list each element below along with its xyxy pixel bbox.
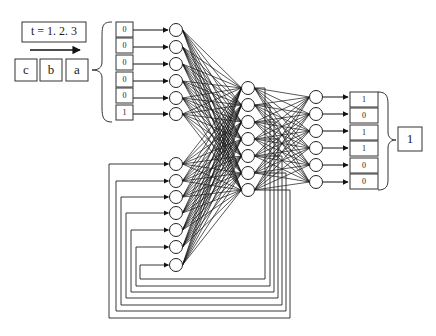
- input-value: 1: [116, 108, 133, 117]
- output-neuron: [310, 176, 323, 189]
- hidden-neuron: [242, 167, 255, 180]
- neuron: [170, 191, 183, 204]
- hidden-neuron: [242, 133, 255, 146]
- neuron: [170, 108, 183, 121]
- input-value: 0: [116, 25, 133, 34]
- input-value: 0: [116, 41, 133, 50]
- neuron: [170, 224, 183, 237]
- neuron: [170, 24, 183, 37]
- neuron: [170, 207, 183, 220]
- output-brace: [378, 92, 396, 190]
- input-brace: [92, 22, 112, 122]
- result-label: 1: [398, 131, 422, 147]
- output-value: 0: [350, 161, 378, 170]
- neuron: [170, 175, 183, 188]
- neuron: [170, 241, 183, 254]
- hidden-neuron: [242, 184, 255, 197]
- output-value: 0: [350, 111, 378, 120]
- time-step-label: t = 1. 2. 3: [22, 24, 86, 39]
- output-neuron: [310, 125, 323, 138]
- sequence-label-a: a: [66, 62, 88, 78]
- output-neuron: [310, 108, 323, 121]
- sequence-label-b: b: [40, 62, 62, 78]
- hidden-neuron: [242, 99, 255, 112]
- output-value: 0: [350, 177, 378, 186]
- output-neuron: [310, 159, 323, 172]
- output-value: 1: [350, 144, 378, 153]
- neuron: [170, 92, 183, 105]
- input-value: 0: [116, 58, 133, 67]
- output-value: 1: [350, 128, 378, 137]
- neuron: [170, 58, 183, 71]
- output-neuron: [310, 142, 323, 155]
- neuron: [170, 41, 183, 54]
- neuron: [170, 158, 183, 171]
- hidden-neuron: [242, 82, 255, 95]
- neuron: [170, 75, 183, 88]
- input-value: 0: [116, 91, 133, 100]
- neuron: [170, 259, 183, 272]
- hidden-neuron: [242, 150, 255, 163]
- hidden-neuron: [242, 116, 255, 129]
- input-value: 0: [116, 75, 133, 84]
- output-neuron: [310, 91, 323, 104]
- sequence-label-c: c: [15, 62, 37, 78]
- output-value: 1: [350, 95, 378, 104]
